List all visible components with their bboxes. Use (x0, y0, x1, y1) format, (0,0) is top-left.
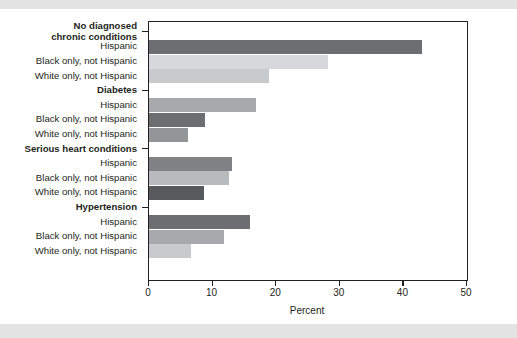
group-label-1-line-1: No diagnosed (51, 20, 137, 31)
bar-label: Black only, not Hispanic (36, 230, 137, 241)
x-axis-title: Percent (148, 305, 466, 316)
bar (149, 55, 328, 69)
x-tick-50 (466, 280, 467, 286)
x-tick-label-20: 20 (255, 287, 295, 298)
group-label-2-line-1: Diabetes (97, 84, 137, 95)
x-tick-40 (402, 280, 403, 286)
x-tick-20 (275, 280, 276, 286)
plot-area (148, 21, 468, 281)
bottom-banner-band (0, 324, 517, 338)
group-label-3: Serious heart conditions (25, 143, 137, 154)
x-tick-label-0: 0 (128, 287, 168, 298)
y-axis-labels: No diagnosedchronic conditionsHispanicBl… (0, 21, 143, 279)
group-label-4: Hypertension (76, 201, 137, 212)
chart-figure: No diagnosedchronic conditionsHispanicBl… (0, 0, 517, 338)
bar (149, 230, 224, 244)
top-banner-band (0, 0, 517, 9)
group-label-3-line-1: Serious heart conditions (25, 143, 137, 154)
x-tick-label-30: 30 (319, 287, 359, 298)
x-tick-30 (339, 280, 340, 286)
bar (149, 98, 256, 112)
x-tick-10 (212, 280, 213, 286)
bar-label: White only, not Hispanic (35, 186, 137, 197)
bar-label: Black only, not Hispanic (36, 55, 137, 66)
bars-container (149, 22, 467, 280)
bar-label: Black only, not Hispanic (36, 113, 137, 124)
bar-label: Hispanic (100, 157, 137, 168)
bar-label: White only, not Hispanic (35, 70, 137, 81)
group-label-4-line-1: Hypertension (76, 201, 137, 212)
bar (149, 113, 205, 127)
bar (149, 40, 422, 54)
bar (149, 128, 188, 142)
bar-label: Hispanic (100, 99, 137, 110)
group-label-1: No diagnosedchronic conditions (51, 20, 137, 42)
bar-label: White only, not Hispanic (35, 245, 137, 256)
bar (149, 215, 250, 229)
bar (149, 171, 229, 185)
x-tick-0 (148, 280, 149, 286)
bar-label: Black only, not Hispanic (36, 172, 137, 183)
bar (149, 69, 269, 83)
x-tick-label-10: 10 (192, 287, 232, 298)
group-label-2: Diabetes (97, 84, 137, 95)
bar (149, 186, 204, 200)
bar (149, 244, 191, 258)
bar-label: Hispanic (100, 40, 137, 51)
x-tick-label-50: 50 (446, 287, 486, 298)
bar (149, 157, 232, 171)
bar-label: White only, not Hispanic (35, 128, 137, 139)
x-tick-label-40: 40 (382, 287, 422, 298)
bar-label: Hispanic (100, 216, 137, 227)
